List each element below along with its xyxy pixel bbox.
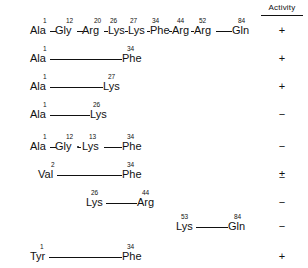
residue-position-number: 84	[238, 17, 245, 24]
residue-label: Lys	[128, 25, 145, 36]
residue-position-number: 26	[110, 17, 117, 24]
residue-label: Lys	[103, 81, 120, 92]
residue-position-number: 1	[43, 101, 47, 108]
residue-position-number: 1	[40, 243, 44, 250]
peptide-chain: 53Lys84Gln	[0, 208, 258, 234]
activity-value: ±	[259, 169, 305, 180]
residue-label: Arg	[82, 25, 99, 36]
residue-label: Lys	[108, 25, 125, 36]
residue-label: Phe	[122, 251, 142, 262]
activity-value: +	[259, 25, 305, 36]
residue-position-number: 12	[66, 17, 73, 24]
residue-position-number: 1	[43, 73, 47, 80]
residue-label: Ala	[30, 141, 46, 152]
fragment-row: 1Ala34Phe+	[0, 40, 308, 66]
activity-value: −	[259, 141, 305, 152]
residue-position-number: 34	[127, 243, 134, 250]
peptide-chain: 1Ala26Lys	[0, 96, 258, 122]
chain-link	[50, 59, 122, 60]
residue-label: Gln	[232, 25, 249, 36]
peptide-chain: 1Ala12Gly13Lys34Phe	[0, 128, 258, 154]
residue-position-number: 12	[66, 133, 73, 140]
residue-position-number: 27	[108, 73, 115, 80]
residue-position-number: 34	[152, 17, 159, 24]
chain-link	[196, 227, 228, 228]
chain-link	[216, 31, 232, 32]
residue-label: Val	[38, 169, 53, 180]
peptide-fragment-activity-figure: Activity 1Ala12Gly20Arg26Lys27Lys34Phe44…	[0, 0, 308, 268]
residue-position-number: 34	[127, 133, 134, 140]
activity-value: +	[259, 53, 305, 64]
residue-position-number: 13	[89, 133, 96, 140]
fragment-row: 2Val34Phe±	[0, 156, 308, 182]
residue-label: Ala	[30, 81, 46, 92]
fragment-row: 1Ala26Lys−	[0, 96, 308, 122]
residue-label: Ala	[30, 53, 46, 64]
residue-label: Phe	[122, 53, 142, 64]
residue-label: Arg	[137, 197, 154, 208]
activity-value: +	[259, 81, 305, 92]
residue-label: Lys	[82, 141, 99, 152]
fragment-row: 26Lys44Arg−	[0, 184, 308, 210]
residue-position-number: 52	[199, 17, 206, 24]
fragment-row: 1Ala12Gly20Arg26Lys27Lys34Phe44Arg52Arg8…	[0, 12, 308, 38]
residue-position-number: 1	[43, 45, 47, 52]
residue-label: Gly	[55, 25, 72, 36]
activity-value: −	[259, 109, 305, 120]
chain-link	[50, 115, 90, 116]
residue-label: Tyr	[30, 251, 45, 262]
residue-position-number: 26	[93, 101, 100, 108]
peptide-chain: 2Val34Phe	[0, 156, 258, 182]
residue-position-number: 1	[43, 17, 47, 24]
residue-label: Phe	[150, 25, 170, 36]
activity-column-header: Activity	[259, 3, 305, 12]
residue-position-number: 1	[43, 133, 47, 140]
peptide-chain: 26Lys44Arg	[0, 184, 258, 210]
residue-position-number: 26	[91, 189, 98, 196]
fragment-row: 1Ala27Lys+	[0, 68, 308, 94]
residue-label: Phe	[122, 141, 142, 152]
residue-label: Ala	[30, 25, 46, 36]
residue-label: Gln	[228, 221, 245, 232]
residue-label: Arg	[194, 25, 211, 36]
chain-link	[106, 203, 137, 204]
residue-label: Lys	[90, 109, 107, 120]
chain-link	[57, 175, 122, 176]
activity-value: +	[259, 251, 305, 262]
residue-position-number: 2	[51, 161, 55, 168]
activity-value: −	[259, 197, 305, 208]
fragment-row: 1Tyr34Phe+	[0, 238, 308, 264]
residue-label: Lys	[176, 221, 193, 232]
residue-label: Lys	[86, 197, 103, 208]
activity-value: −	[259, 221, 305, 232]
chain-joint-dot	[77, 146, 79, 148]
peptide-chain: 1Ala27Lys	[0, 68, 258, 94]
peptide-chain: 1Ala34Phe	[0, 40, 258, 66]
residue-position-number: 20	[94, 17, 101, 24]
residue-position-number: 84	[234, 213, 241, 220]
chain-link	[104, 147, 122, 148]
residue-label: Arg	[172, 25, 189, 36]
residue-position-number: 27	[130, 17, 137, 24]
residue-position-number: 34	[127, 161, 134, 168]
peptide-chain: 1Tyr34Phe	[0, 238, 258, 264]
residue-label: Gly	[55, 141, 72, 152]
residue-position-number: 44	[177, 17, 184, 24]
peptide-chain: 1Ala12Gly20Arg26Lys27Lys34Phe44Arg52Arg8…	[0, 12, 258, 38]
residue-label: Ala	[30, 109, 46, 120]
fragment-row: 53Lys84Gln−	[0, 208, 308, 234]
residue-position-number: 44	[142, 189, 149, 196]
residue-position-number: 53	[181, 213, 188, 220]
residue-position-number: 34	[127, 45, 134, 52]
residue-label: Phe	[122, 169, 142, 180]
chain-link	[50, 87, 103, 88]
fragment-row: 1Ala12Gly13Lys34Phe−	[0, 128, 308, 154]
chain-link	[49, 257, 122, 258]
